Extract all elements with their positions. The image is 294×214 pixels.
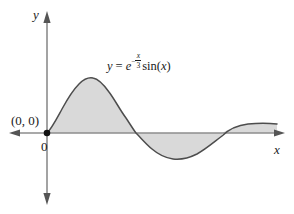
x-axis-arrow-left xyxy=(9,129,20,136)
equation-equals: = xyxy=(116,59,123,73)
damped-sine-figure: y x (0, 0) 0 y=e− x 3 sin(x) xyxy=(0,0,294,214)
shaded-region xyxy=(47,78,136,133)
plot-canvas xyxy=(0,0,294,214)
equation-exponent-numerator: x xyxy=(135,52,141,60)
equation-trig: sin( xyxy=(142,59,161,73)
equation-lhs: y xyxy=(107,59,113,73)
equation-label: y=e− x 3 sin(x) xyxy=(107,58,171,76)
origin-coordinate-label: (0, 0) xyxy=(11,114,39,127)
y-axis-arrow-up xyxy=(43,11,50,23)
origin-dot xyxy=(44,130,51,137)
y-axis-arrow-down xyxy=(43,193,50,205)
x-axis-arrow-right xyxy=(274,129,285,136)
y-axis-label: y xyxy=(33,8,39,21)
x-axis-label: x xyxy=(274,143,280,156)
shaded-region-tail xyxy=(222,123,277,133)
equation-exponent-fraction: x 3 xyxy=(135,52,141,70)
equation-trig-close: ) xyxy=(166,59,170,73)
equation-exponent-denominator: 3 xyxy=(135,62,141,70)
origin-zero-label: 0 xyxy=(41,140,48,153)
